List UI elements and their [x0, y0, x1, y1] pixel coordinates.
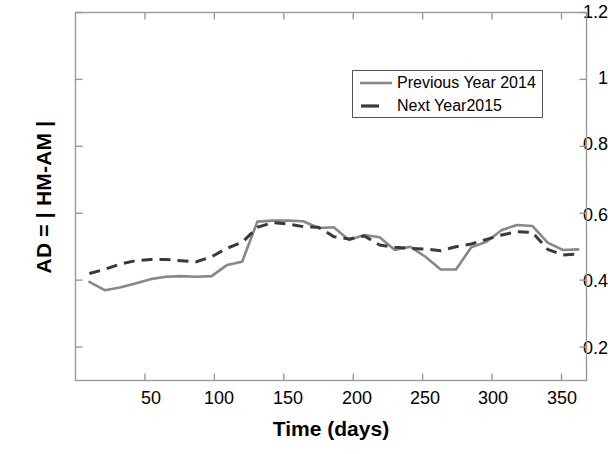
plot-area [0, 0, 608, 454]
legend-label-previous-year-2014: Previous Year 2014 [397, 74, 536, 92]
legend-swatch-previous-year-2014 [359, 76, 393, 90]
axis-ticks [76, 13, 587, 381]
axis-frame [76, 13, 587, 381]
legend-entry-next-year-2015: Next Year2015 [353, 94, 542, 118]
legend: Previous Year 2014 Next Year2015 [352, 70, 543, 118]
legend-label-next-year-2015: Next Year2015 [397, 97, 502, 115]
chart-figure: AD = | HM-AM | 1.2 1 0.8 0.6 0.4 0.2 50 … [0, 0, 608, 454]
series-line-previous-year-2014 [89, 221, 578, 291]
legend-swatch-next-year-2015 [359, 99, 393, 113]
legend-entry-previous-year-2014: Previous Year 2014 [353, 71, 542, 95]
